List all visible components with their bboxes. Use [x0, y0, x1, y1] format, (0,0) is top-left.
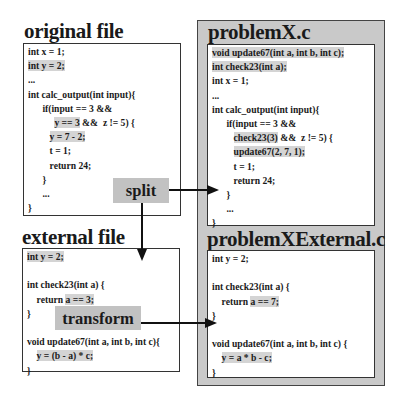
- code-text: [28, 131, 50, 142]
- code-line: y = (b - a) * c;: [27, 349, 179, 363]
- code-text: && z != 5) {: [80, 117, 135, 128]
- code-highlight: int y = 2;: [28, 60, 65, 71]
- code-line: int y = 2;: [28, 59, 180, 73]
- code-highlight: y = 7 - 2;: [50, 131, 86, 142]
- code-text: int calc_output(int input){: [212, 104, 319, 115]
- code-text: int x = 1;: [28, 46, 65, 57]
- code-text: int y = 2;: [212, 253, 249, 264]
- code-text: void update67(int a, int b, int c) {: [212, 338, 347, 349]
- code-line: return a == 7;: [212, 295, 374, 309]
- code-text: int check23(int a) {: [27, 279, 105, 290]
- split-arrow-right-head: [207, 185, 219, 195]
- code-line: }: [212, 188, 374, 202]
- code-text: [28, 117, 54, 128]
- code-text: }: [28, 202, 32, 213]
- code-line: }: [27, 364, 179, 378]
- code-text: int x = 1;: [212, 75, 249, 86]
- problemx-code: void update67(int a, int b, int c);int c…: [208, 45, 374, 230]
- code-highlight: check23(3): [234, 132, 278, 143]
- code-highlight: void update67(int a, int b, int c);: [212, 47, 344, 58]
- split-label: split: [113, 178, 169, 203]
- code-highlight: y = a * b - c;: [222, 352, 272, 363]
- code-text: return 24;: [28, 160, 91, 171]
- code-line: int y = 2;: [27, 250, 179, 264]
- problemxexternal-box: int y = 2; int check23(int a) { return a…: [207, 250, 375, 378]
- code-line: y = 7 - 2;: [28, 130, 180, 144]
- code-line: [212, 266, 374, 280]
- code-text: t = 1;: [212, 161, 255, 172]
- original-file-title: original file: [24, 20, 123, 42]
- code-line: }: [212, 366, 374, 380]
- code-text: return 24;: [212, 175, 275, 186]
- code-text: }: [27, 365, 31, 376]
- code-text: [27, 350, 37, 361]
- code-text: if(input == 3 &&: [28, 103, 112, 114]
- code-text: return: [212, 296, 250, 307]
- code-text: ...: [212, 203, 234, 214]
- split-arrow-right-line: [169, 189, 209, 191]
- code-line: if(input == 3 &&: [212, 117, 374, 131]
- code-text: ...: [28, 74, 35, 85]
- code-line: update67(2, 7, 1);: [212, 145, 374, 159]
- code-line: void update67(int a, int b, int c) {: [212, 337, 374, 351]
- code-line: ...: [212, 202, 374, 216]
- code-line: int calc_output(int input){: [212, 103, 374, 117]
- code-text: if(input == 3 &&: [212, 118, 296, 129]
- code-highlight: int y = 2;: [27, 251, 64, 262]
- code-line: t = 1;: [28, 144, 180, 158]
- code-text: }: [212, 367, 216, 378]
- code-text: int check23(int a) {: [212, 281, 290, 292]
- code-line: return 24;: [28, 159, 180, 173]
- code-text: void update67(int a, int b, int c){: [27, 336, 160, 347]
- code-line: int y = 2;: [212, 252, 374, 266]
- code-highlight: y == 3: [54, 117, 79, 128]
- code-line: return a == 3;: [27, 293, 179, 307]
- code-text: t = 1;: [28, 145, 71, 156]
- problemxexternal-code: int y = 2; int check23(int a) { return a…: [208, 251, 374, 380]
- transform-label: transform: [55, 306, 141, 330]
- code-text: [212, 132, 234, 143]
- code-line: }: [212, 309, 374, 323]
- code-line: int check23(int a) {: [212, 280, 374, 294]
- code-line: int x = 1;: [212, 74, 374, 88]
- code-line: void update67(int a, int b, int c);: [212, 46, 374, 60]
- code-text: [212, 146, 234, 157]
- code-line: int calc_output(int input){: [28, 88, 180, 102]
- code-line: return 24;: [212, 174, 374, 188]
- code-line: if(input == 3 &&: [28, 102, 180, 116]
- problemxexternal-title: problemXExternal.c: [207, 228, 385, 250]
- code-line: }: [28, 201, 180, 215]
- code-line: y == 3 && z != 5) {: [28, 116, 180, 130]
- code-highlight: update67(2, 7, 1);: [234, 146, 305, 157]
- code-text: int calc_output(int input){: [28, 89, 135, 100]
- code-line: [27, 264, 179, 278]
- code-line: [212, 323, 374, 337]
- code-highlight: y = (b - a) * c;: [37, 350, 94, 361]
- code-highlight: a == 3;: [65, 294, 94, 305]
- transform-arrow-head: [205, 318, 217, 328]
- code-text: return: [27, 294, 65, 305]
- code-line: int check23(int a) {: [27, 278, 179, 292]
- code-text: }: [27, 308, 31, 319]
- code-line: ...: [28, 73, 180, 87]
- code-text: ...: [212, 90, 219, 101]
- code-line: int check23(int a);: [212, 60, 374, 74]
- code-line: int x = 1;: [28, 45, 180, 59]
- code-line: y = a * b - c;: [212, 351, 374, 365]
- code-line: ...: [212, 89, 374, 103]
- problemx-title: problemX.c: [208, 21, 310, 43]
- split-arrow-down-head: [137, 249, 147, 261]
- code-line: t = 1;: [212, 160, 374, 174]
- code-text: [212, 352, 222, 363]
- transform-arrow-line: [141, 322, 207, 324]
- code-text: ...: [28, 188, 50, 199]
- code-highlight: a == 7;: [250, 296, 279, 307]
- external-file-title: external file: [22, 226, 125, 248]
- code-line: check23(3) && z != 5) {: [212, 131, 374, 145]
- code-text: }: [28, 174, 46, 185]
- code-text: && z != 5) {: [278, 132, 333, 143]
- problemx-box: void update67(int a, int b, int c);int c…: [207, 44, 375, 226]
- split-arrow-down-line: [141, 203, 143, 251]
- code-line: void update67(int a, int b, int c){: [27, 335, 179, 349]
- code-highlight: int check23(int a);: [212, 61, 287, 72]
